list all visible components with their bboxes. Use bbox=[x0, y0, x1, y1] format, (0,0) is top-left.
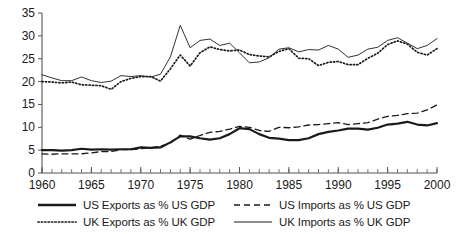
y-axis: 05101520253035 bbox=[22, 6, 42, 180]
legend-swatch-dashed bbox=[233, 199, 273, 211]
y-tick-label-20: 20 bbox=[22, 75, 36, 89]
legend-entry-uk-imports: UK Imports as % UK GDP bbox=[233, 216, 429, 228]
y-axis-tick-labels: 05101520253035 bbox=[22, 6, 36, 180]
legend-label-uk-imports: UK Imports as % UK GDP bbox=[279, 216, 410, 228]
legend-swatch-solid-thin bbox=[233, 216, 273, 228]
legend-entry-uk-exports: UK Exports as % UK GDP bbox=[37, 216, 233, 228]
legend-label-us-exports: US Exports as % US GDP bbox=[83, 199, 215, 211]
legend-label-uk-exports: UK Exports as % UK GDP bbox=[83, 216, 215, 228]
x-axis-tick-labels: 196019651970197519801985199019952000 bbox=[29, 178, 451, 192]
x-tick-label-1995: 1995 bbox=[374, 178, 401, 192]
series-line-us-imports-as-us-gdp bbox=[42, 105, 437, 154]
y-tick-label-25: 25 bbox=[22, 52, 36, 66]
legend-swatch-solid-thick bbox=[37, 199, 77, 211]
line-chart-plot: 05101520253035 1960196519701975198019851… bbox=[0, 0, 466, 196]
y-tick-label-30: 30 bbox=[22, 29, 36, 43]
x-tick-label-1975: 1975 bbox=[177, 178, 204, 192]
legend-swatch-dotted bbox=[37, 216, 77, 228]
x-tick-label-1965: 1965 bbox=[78, 178, 105, 192]
chart-figure: 05101520253035 1960196519701975198019851… bbox=[0, 0, 466, 234]
x-axis: 196019651970197519801985199019952000 bbox=[29, 167, 451, 192]
legend-row-1: US Exports as % US GDP US Imports as % U… bbox=[0, 196, 466, 213]
legend-label-us-imports: US Imports as % US GDP bbox=[279, 199, 410, 211]
x-tick-label-1980: 1980 bbox=[226, 178, 253, 192]
x-tick-label-2000: 2000 bbox=[424, 178, 451, 192]
y-tick-label-5: 5 bbox=[28, 143, 35, 157]
data-series-group bbox=[42, 25, 437, 154]
legend-row-2: UK Exports as % UK GDP UK Imports as % U… bbox=[0, 213, 466, 230]
legend-entry-us-exports: US Exports as % US GDP bbox=[37, 199, 233, 211]
x-tick-label-1970: 1970 bbox=[127, 178, 154, 192]
y-tick-label-15: 15 bbox=[22, 97, 36, 111]
legend-entry-us-imports: US Imports as % US GDP bbox=[233, 199, 429, 211]
x-tick-label-1960: 1960 bbox=[29, 178, 56, 192]
y-tick-label-35: 35 bbox=[22, 6, 36, 20]
y-tick-label-10: 10 bbox=[22, 120, 36, 134]
chart-legend: US Exports as % US GDP US Imports as % U… bbox=[0, 196, 466, 234]
x-tick-label-1985: 1985 bbox=[276, 178, 303, 192]
x-tick-label-1990: 1990 bbox=[325, 178, 352, 192]
y-axis-ticks bbox=[38, 13, 42, 173]
